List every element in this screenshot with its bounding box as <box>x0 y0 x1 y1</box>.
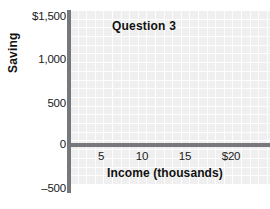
x-axis-line <box>67 143 270 147</box>
y-tick-label-0: 0 <box>60 138 66 150</box>
chart-title: Question 3 <box>112 19 176 33</box>
y-tick-label-500: 500 <box>47 97 66 109</box>
chart-figure: $1,500 1,000 500 0 –500 5 10 15 $20 Savi… <box>0 0 270 209</box>
x-tick-label-10: 10 <box>131 150 153 162</box>
y-tick-label-1000: 1,000 <box>38 53 66 65</box>
x-tick-label-5: 5 <box>90 150 112 162</box>
y-axis-title: Saving <box>6 32 20 73</box>
y-tick-label-minus500: –500 <box>41 182 66 194</box>
x-tick-label-15: 15 <box>174 150 196 162</box>
y-tick-label-1500: $1,500 <box>32 10 66 22</box>
x-axis-title: Income (thousands) <box>70 166 260 180</box>
x-tick-label-20: $20 <box>216 150 246 162</box>
